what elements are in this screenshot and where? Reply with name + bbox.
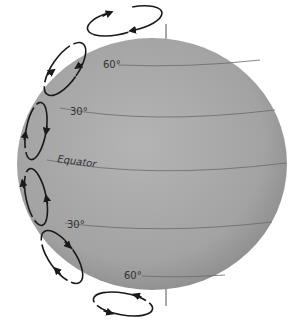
- circulation-diagram: 60° 30° Equator 30° 60°: [0, 0, 303, 326]
- label-60n: 60°: [103, 59, 121, 70]
- polar-cell-north: [85, 1, 165, 41]
- label-30n: 30°: [70, 106, 88, 117]
- label-30s: 30°: [67, 219, 85, 230]
- polar-cell-south: [92, 288, 155, 320]
- label-60s: 60°: [124, 270, 142, 281]
